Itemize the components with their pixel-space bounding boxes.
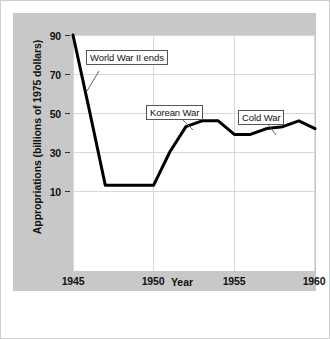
y-axis-title: Appropriations (billions of 1975 dollars… — [31, 37, 43, 237]
y-tick-mark-10 — [65, 191, 70, 192]
annotation-cold-war: Cold War — [238, 110, 284, 125]
gridline-y-70 — [73, 74, 315, 75]
figure-container: Appropriations (billions of 1975 dollars… — [0, 0, 330, 339]
gridline-x-1950 — [153, 35, 154, 271]
source-bar: Source: U.S. Bureau of the Census. — [13, 291, 316, 331]
y-tick-label-10: 10 — [35, 186, 61, 198]
gridline-y-90 — [73, 35, 315, 36]
y-tick-label-70: 70 — [35, 69, 61, 81]
gridline-x-1955 — [234, 35, 235, 271]
gridline-x-1960 — [314, 35, 315, 271]
x-axis-title: Year — [61, 276, 303, 288]
y-tick-mark-30 — [65, 152, 70, 153]
y-tick-mark-90 — [65, 35, 70, 36]
gridline-y-10 — [73, 191, 315, 192]
y-tick-label-30: 30 — [35, 147, 61, 159]
gridline-y-30 — [73, 152, 315, 153]
gridline-x-1945 — [73, 35, 74, 271]
y-tick-mark-50 — [65, 113, 70, 114]
y-tick-mark-70 — [65, 74, 70, 75]
data-line-svg — [73, 35, 315, 271]
y-tick-label-50: 50 — [35, 108, 61, 120]
annotation-korean-war: Korean War — [146, 105, 203, 120]
plot-area: World War II ends Korean War Cold War — [73, 35, 315, 271]
chart-panel: Appropriations (billions of 1975 dollars… — [13, 13, 316, 291]
y-tick-label-90: 90 — [35, 30, 61, 42]
annotation-world-war-ii-ends: World War II ends — [86, 50, 168, 65]
